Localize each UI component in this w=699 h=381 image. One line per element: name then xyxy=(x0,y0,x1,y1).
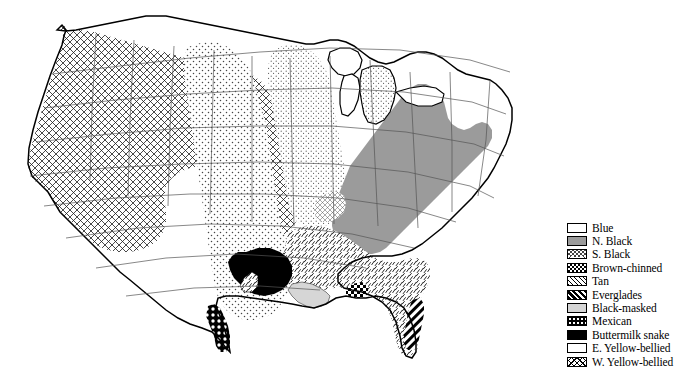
lake-michigan-outline xyxy=(340,74,360,116)
swatch-brown-chinned-icon xyxy=(567,263,587,273)
legend-item-mexican: Mexican xyxy=(567,315,699,328)
swatch-everglades-icon xyxy=(567,290,587,300)
legend-item-everglades: Everglades xyxy=(567,288,699,301)
swatch-mexican-icon xyxy=(567,316,587,326)
legend-item-w-yellow-bellied: W. Yellow-bellied xyxy=(567,355,699,368)
legend-label-buttermilk-snake: Buttermilk snake xyxy=(592,329,669,341)
legend-label-mexican: Mexican xyxy=(592,315,632,327)
swatch-buttermilk-snake-icon xyxy=(567,330,587,340)
legend-label-e-yellow-bellied: E. Yellow-bellied xyxy=(592,342,670,354)
legend-label-black-masked: Black-masked xyxy=(592,302,657,314)
swatch-blue-icon xyxy=(567,223,587,233)
swatch-tan-icon xyxy=(567,276,587,286)
swatch-black-masked-icon xyxy=(567,303,587,313)
great-lakes-outline xyxy=(328,48,362,76)
legend-item-brown-chinned: Brown-chinned xyxy=(567,261,699,274)
pattern-legend: Blue N. Black S. Black Brown-chinned Tan… xyxy=(567,221,699,368)
swatch-s-black-icon xyxy=(567,249,587,259)
legend-item-buttermilk-snake: Buttermilk snake xyxy=(567,328,699,341)
swatch-w-yellow-bellied-icon xyxy=(567,357,587,367)
swatch-n-black-icon xyxy=(567,236,587,246)
legend-item-blue: Blue xyxy=(567,221,699,234)
legend-label-n-black: N. Black xyxy=(592,235,632,247)
legend-label-blue: Blue xyxy=(592,222,613,234)
legend-label-everglades: Everglades xyxy=(592,289,642,301)
legend-label-s-black: S. Black xyxy=(592,248,630,260)
swatch-e-yellow-bellied-icon xyxy=(567,343,587,353)
united-states-range-map xyxy=(0,0,560,381)
map-container xyxy=(0,0,560,381)
legend-item-n-black: N. Black xyxy=(567,234,699,247)
legend-label-tan: Tan xyxy=(592,275,609,287)
legend-item-s-black: S. Black xyxy=(567,248,699,261)
legend-label-w-yellow-bellied: W. Yellow-bellied xyxy=(592,356,673,368)
legend-item-black-masked: Black-masked xyxy=(567,301,699,314)
legend-item-e-yellow-bellied: E. Yellow-bellied xyxy=(567,342,699,355)
legend-label-brown-chinned: Brown-chinned xyxy=(592,262,662,274)
legend-item-tan: Tan xyxy=(567,275,699,288)
figure-root: Blue N. Black S. Black Brown-chinned Tan… xyxy=(0,0,699,381)
